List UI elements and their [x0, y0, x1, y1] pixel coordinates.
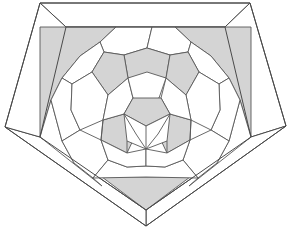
- truncated-icosahedron-diagram: Truncated icosahedron inscribed in a pen…: [0, 0, 290, 231]
- figure-root: Truncated icosahedron inscribed in a pen…: [0, 0, 290, 231]
- frame-bevel-top: [40, 3, 250, 27]
